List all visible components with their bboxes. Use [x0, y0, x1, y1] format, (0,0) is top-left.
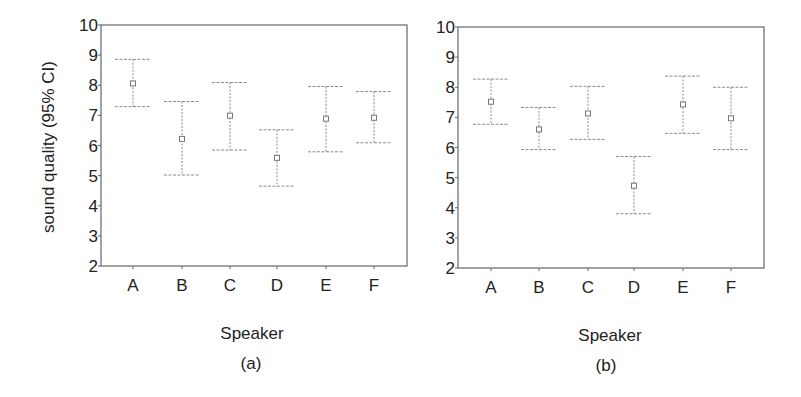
panel-caption: (a): [241, 354, 262, 373]
figure: 2345678910 ABCDEF sound quality (95% CI)…: [0, 0, 801, 397]
error-bar-c: [570, 86, 606, 139]
y-tick-label: 7: [89, 106, 98, 125]
error-bar-a: [473, 79, 509, 124]
y-tick-label: 4: [89, 197, 98, 216]
y-tick-label: 7: [446, 108, 455, 127]
mean-marker-icon: [275, 155, 280, 160]
y-axis-ticks: 2345678910: [79, 16, 101, 276]
panel-caption: (b): [596, 356, 617, 375]
y-tick-label: 5: [446, 169, 455, 188]
mean-marker-icon: [681, 102, 686, 107]
error-bar-d: [616, 157, 652, 214]
mean-marker-icon: [586, 111, 591, 116]
error-bar-f: [713, 87, 749, 149]
y-tick-label: 8: [89, 76, 98, 95]
x-tick-label: C: [224, 276, 236, 295]
x-tick-label: E: [677, 278, 688, 297]
plot-frame: [458, 27, 764, 268]
mean-marker-icon: [372, 115, 377, 120]
panel-a-chart: 2345678910 ABCDEF sound quality (95% CI)…: [39, 16, 407, 373]
mean-marker-icon: [228, 113, 233, 118]
error-bar-b: [521, 107, 557, 149]
y-tick-label: 4: [446, 199, 455, 218]
y-tick-label: 3: [89, 227, 98, 246]
error-bar-e: [308, 86, 344, 151]
y-tick-label: 3: [446, 229, 455, 248]
y-tick-label: 6: [446, 139, 455, 158]
y-tick-label: 8: [446, 78, 455, 97]
y-tick-label: 9: [446, 48, 455, 67]
y-axis-title: sound quality (95% CI): [39, 61, 58, 233]
y-axis-ticks: 2345678910: [436, 18, 458, 278]
y-tick-label: 10: [79, 16, 98, 35]
mean-marker-icon: [324, 116, 329, 121]
error-bar-series: [115, 59, 392, 186]
y-tick-label: 2: [446, 259, 455, 278]
x-tick-label: E: [320, 276, 331, 295]
error-bar-f: [356, 92, 392, 143]
error-bar-e: [665, 76, 701, 133]
plot-frame: [101, 25, 407, 266]
x-tick-label: B: [533, 278, 544, 297]
x-tick-label: D: [271, 276, 283, 295]
mean-marker-icon: [537, 127, 542, 132]
x-tick-label: D: [628, 278, 640, 297]
x-tick-label: C: [582, 278, 594, 297]
y-tick-label: 6: [89, 137, 98, 156]
mean-marker-icon: [729, 116, 734, 121]
mean-marker-icon: [489, 99, 494, 104]
mean-marker-icon: [632, 183, 637, 188]
y-tick-label: 10: [436, 18, 455, 37]
x-axis-title: Speaker: [220, 324, 284, 343]
y-tick-label: 9: [89, 46, 98, 65]
x-axis-ticks: ABCDEF: [485, 268, 736, 297]
y-tick-label: 2: [89, 257, 98, 276]
x-tick-label: B: [176, 276, 187, 295]
x-tick-label: F: [726, 278, 736, 297]
x-tick-label: A: [485, 278, 497, 297]
error-bar-a: [115, 59, 151, 106]
x-axis-ticks: ABCDEF: [127, 266, 379, 295]
x-tick-label: A: [127, 276, 139, 295]
error-bar-b: [164, 102, 200, 176]
y-tick-label: 5: [89, 167, 98, 186]
error-bar-c: [212, 83, 248, 150]
error-bar-series: [473, 76, 749, 214]
panel-b-chart: 2345678910 ABCDEF Speaker (b): [436, 18, 764, 375]
x-tick-label: F: [369, 276, 379, 295]
mean-marker-icon: [131, 81, 136, 86]
x-axis-title: Speaker: [578, 326, 642, 345]
mean-marker-icon: [180, 136, 185, 141]
error-bar-d: [259, 130, 295, 186]
